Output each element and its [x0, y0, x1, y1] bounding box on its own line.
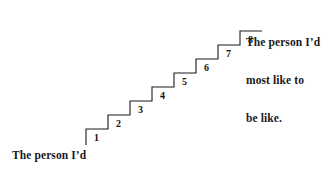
most-like-caption-line-2: most like to: [246, 74, 320, 87]
step-number-3: 3: [138, 105, 143, 115]
step-number-6: 6: [204, 63, 209, 73]
step-number-7: 7: [226, 49, 231, 59]
step-number-5: 5: [182, 77, 187, 87]
least-like-caption-line-1: The person I’d: [12, 149, 86, 162]
figure-canvas: The person I’d most like to be like. The…: [0, 0, 334, 173]
most-like-caption-line-1: The person I’d: [246, 36, 320, 49]
staircase-line: [86, 31, 262, 145]
step-number-4: 4: [160, 91, 165, 101]
step-number-8: 8: [248, 35, 253, 45]
most-like-caption-line-3: be like.: [246, 112, 320, 125]
least-like-caption: The person I’d least like to be like.: [12, 124, 86, 173]
step-number-2: 2: [116, 119, 121, 129]
step-number-1: 1: [94, 133, 99, 143]
most-like-caption: The person I’d most like to be like.: [246, 11, 320, 150]
